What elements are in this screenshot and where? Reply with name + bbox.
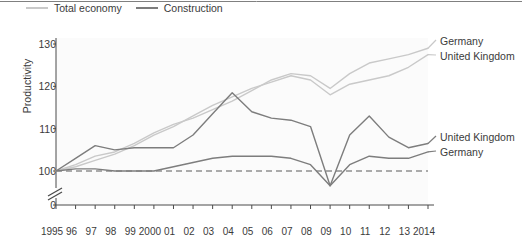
end-label-uk-total: United Kingdom (440, 50, 515, 62)
label-connector (428, 136, 436, 143)
end-label-germany-total: Germany (440, 35, 483, 47)
productivity-line-chart: Total economy Construction Productivity … (0, 0, 522, 248)
label-connector (428, 151, 436, 152)
end-label-germany-construction: Germany (440, 146, 483, 158)
end-label-uk-construction: United Kingdom (440, 131, 515, 143)
label-connector (428, 40, 436, 48)
